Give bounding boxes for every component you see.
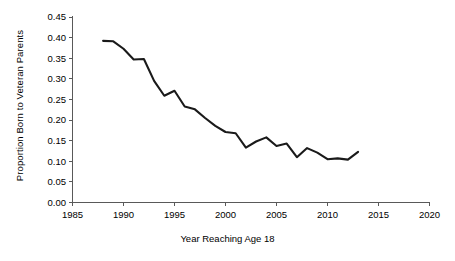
y-tick-label: 0.30 [48,73,67,84]
y-tick-label: 0.05 [48,176,67,187]
x-tick-label: 1990 [113,209,134,220]
y-tick-label: 0.15 [48,135,67,146]
y-tick-label: 0.00 [48,197,67,208]
line-chart-plot: 0.000.050.100.150.200.250.300.350.400.45… [0,0,455,261]
x-tick-label: 2000 [215,209,236,220]
x-tick-label: 2005 [266,209,287,220]
y-tick-label: 0.45 [48,11,67,22]
x-tick-label: 2010 [317,209,338,220]
x-tick-label: 1985 [62,209,83,220]
y-tick-label: 0.35 [48,53,67,64]
chart-figure: Proportion Born to Veteran Parents 0.000… [0,0,455,261]
x-tick-label: 1995 [164,209,185,220]
x-axis-label: Year Reaching Age 18 [0,233,455,244]
x-tick-label: 2020 [419,209,440,220]
y-tick-label: 0.25 [48,94,67,105]
data-series-line [103,41,358,160]
y-tick-label: 0.40 [48,32,67,43]
y-tick-label: 0.10 [48,156,67,167]
x-tick-label: 2015 [368,209,389,220]
y-tick-label: 0.20 [48,114,67,125]
